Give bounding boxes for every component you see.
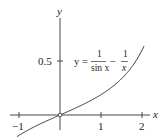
y-axis-label: y: [56, 5, 62, 17]
origin-open-circle: [58, 113, 62, 117]
x-tick-label: 1: [98, 120, 104, 132]
function-plot: x y −1 1 2 0.5 y = 1 sin x − 1 x: [0, 0, 163, 140]
svg-text:x: x: [121, 63, 127, 73]
x-tick-label: 2: [139, 120, 145, 132]
svg-text:1: 1: [123, 49, 128, 59]
svg-text:−: −: [110, 56, 116, 67]
svg-text:sin x: sin x: [91, 63, 109, 73]
svg-text:1: 1: [97, 49, 102, 59]
y-tick-label: 0.5: [38, 55, 52, 67]
svg-text:y =: y =: [74, 56, 88, 67]
x-axis-label: x: [152, 108, 158, 120]
x-tick-label: −1: [12, 120, 24, 132]
equation-label: y = 1 sin x − 1 x: [74, 49, 128, 73]
